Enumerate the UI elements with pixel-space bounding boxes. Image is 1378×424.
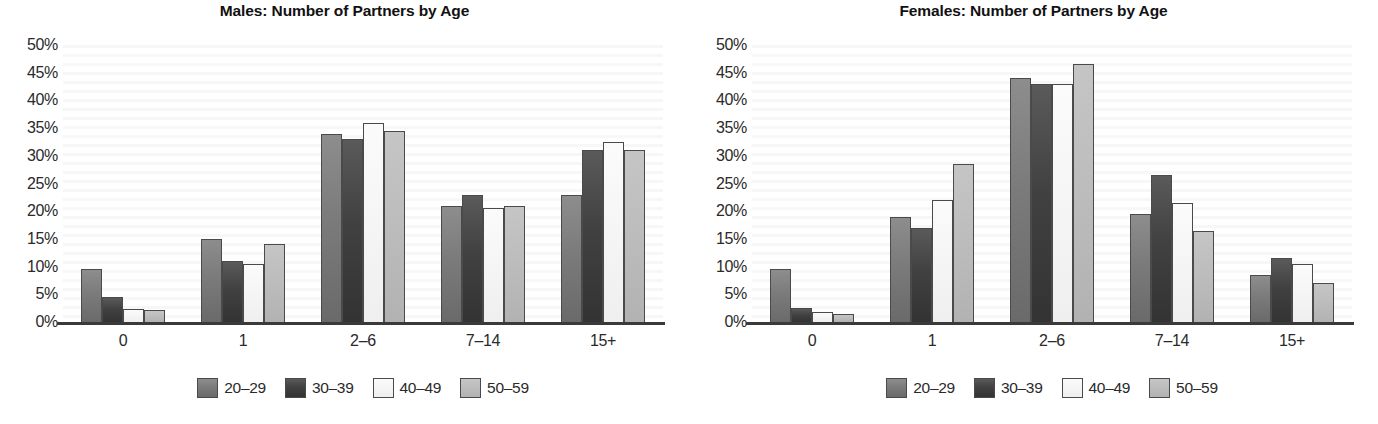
females-y-tick: 0% [691,313,747,331]
females-legend-label: 30–39 [1001,379,1043,397]
males-bar [624,150,645,322]
legend-swatch-icon [373,378,394,398]
females-plot-wrapper: 50%45%40%35%30%25%20%15%10%5%0% 012–67–1… [689,0,1378,424]
males-legend-label: 20–29 [224,379,266,397]
females-y-tick: 45% [691,64,747,82]
males-y-tick: 5% [2,285,58,303]
males-y-tick: 15% [2,230,58,248]
males-y-tick: 20% [2,202,58,220]
females-bar-group [752,45,872,322]
legend-swatch-icon [886,378,907,398]
females-x-label: 7–14 [1112,332,1232,358]
males-y-tick: 45% [2,64,58,82]
males-bar [321,134,342,322]
females-bar [1151,175,1172,322]
females-y-tick: 30% [691,147,747,165]
legend-swatch-icon [285,378,306,398]
females-bar-group [872,45,992,322]
legend-swatch-icon [974,378,995,398]
males-bar [603,142,624,322]
females-y-tick: 5% [691,285,747,303]
females-x-label: 2–6 [992,332,1112,358]
females-legend-item: 20–29 [886,378,955,398]
males-bar [462,195,483,322]
males-bar [201,239,222,322]
males-legend-item: 30–39 [285,378,354,398]
females-legend-label: 40–49 [1089,379,1131,397]
males-plot-wrapper: 50%45%40%35%30%25%20%15%10%5%0% 012–67–1… [0,0,689,424]
males-legend-item: 40–49 [373,378,442,398]
males-x-label: 0 [63,332,183,358]
females-y-tick: 20% [691,202,747,220]
males-bar-group [423,45,543,322]
females-legend-label: 20–29 [913,379,955,397]
females-y-tick: 35% [691,119,747,137]
males-bar-group [63,45,183,322]
males-bar-groups [63,45,663,322]
males-legend-item: 50–59 [460,378,529,398]
males-plot-area [63,45,663,322]
legend-swatch-icon [1062,378,1083,398]
males-bar [81,269,102,322]
females-bar [770,269,791,322]
females-y-tick: 15% [691,230,747,248]
females-bar [1010,78,1031,322]
males-y-tick: 30% [2,147,58,165]
legend-swatch-icon [1149,378,1170,398]
males-x-label: 2–6 [303,332,423,358]
two-panel-bar-chart-figure: Males: Number of Partners by Age 50%45%4… [0,0,1378,424]
females-bar [1292,264,1313,322]
males-x-label: 7–14 [423,332,543,358]
males-chart-panel: Males: Number of Partners by Age 50%45%4… [0,0,689,424]
females-y-tick: 10% [691,258,747,276]
males-bar-group [303,45,423,322]
males-y-tick: 40% [2,91,58,109]
females-legend-item: 30–39 [974,378,1043,398]
males-bar [123,309,144,322]
females-x-label: 1 [872,332,992,358]
females-bar-group [1112,45,1232,322]
males-bar [504,206,525,322]
males-bar [363,123,384,322]
females-plot-area [752,45,1352,322]
females-bar [953,164,974,322]
males-bar-group [543,45,663,322]
females-bar-group [992,45,1112,322]
males-legend: 20–2930–3940–4950–59 [63,378,663,398]
males-bar [102,297,123,322]
males-bar [441,206,462,322]
females-x-axis-labels: 012–67–1415+ [752,332,1352,358]
females-bar [932,200,953,322]
females-bar [1073,64,1094,322]
females-bar [1052,84,1073,322]
males-y-tick: 10% [2,258,58,276]
males-y-tick: 50% [2,36,58,54]
males-legend-label: 40–49 [400,379,442,397]
females-legend: 20–2930–3940–4950–59 [752,378,1352,398]
legend-swatch-icon [197,378,218,398]
females-bar [1031,84,1052,322]
males-bar [342,139,363,322]
males-x-axis-line [57,322,665,325]
males-bar [222,261,243,322]
males-y-tick: 35% [2,119,58,137]
males-bar [582,150,603,322]
females-bar [1193,231,1214,322]
females-bar [1250,275,1271,322]
males-bar [264,244,285,322]
males-bar [384,131,405,322]
females-y-axis: 50%45%40%35%30%25%20%15%10%5%0% [691,36,747,324]
females-x-label: 15+ [1232,332,1352,358]
males-y-tick: 0% [2,313,58,331]
females-bar [890,217,911,322]
males-bar [483,208,504,322]
females-y-tick: 50% [691,36,747,54]
females-x-label: 0 [752,332,872,358]
females-bar [1172,203,1193,322]
females-legend-item: 50–59 [1149,378,1218,398]
legend-swatch-icon [460,378,481,398]
females-bar [911,228,932,322]
females-bar [1271,258,1292,322]
females-y-tick: 25% [691,175,747,193]
females-x-axis-line [746,322,1354,325]
